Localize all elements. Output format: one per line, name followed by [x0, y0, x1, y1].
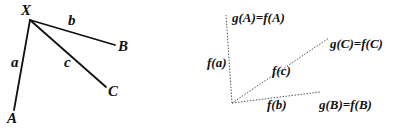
vertex-label-c: C [108, 84, 118, 99]
label-gC-equals-fC: g(C)=f(C) [330, 37, 383, 50]
vertex-label-b: B [118, 39, 128, 54]
label-fb: f(b) [267, 98, 287, 111]
edge-label-a: a [11, 55, 19, 70]
label-fa: f(a) [207, 56, 227, 69]
label-gA-equals-fA: g(A)=f(A) [232, 11, 285, 24]
label-fc: f(c) [272, 64, 291, 77]
edge-label-b: b [68, 13, 76, 28]
edge-fa [226, 15, 232, 103]
edge-label-c: c [64, 55, 71, 70]
right-diagram-edges [226, 15, 329, 103]
vertex-label-a: A [7, 111, 17, 126]
vertex-label-x: X [21, 3, 31, 18]
label-gB-equals-fB: g(B)=f(B) [319, 98, 372, 111]
